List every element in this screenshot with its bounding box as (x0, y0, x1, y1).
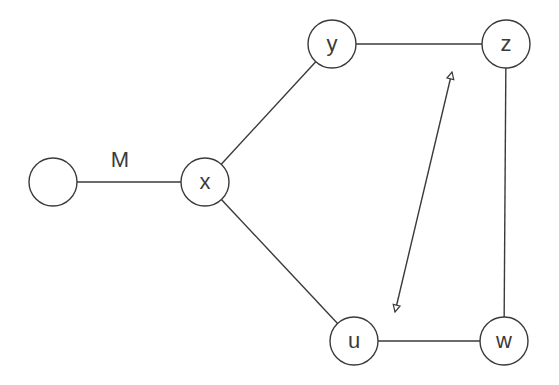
edge-x-y (221, 62, 315, 165)
edge-x-u (221, 200, 337, 324)
node-label: x (200, 169, 211, 194)
double-arrow-line (395, 72, 452, 312)
edge-z-w (504, 68, 506, 317)
node-label: u (348, 328, 360, 353)
node-label: y (327, 31, 338, 56)
node-u: u (330, 317, 378, 365)
double-arrow (395, 72, 452, 312)
node-w: w (480, 317, 528, 365)
node-y: y (308, 20, 356, 68)
node-circle (29, 158, 77, 206)
nodes: xyzuw (29, 20, 530, 365)
edge-label-m: M (111, 147, 129, 172)
node-label: z (501, 31, 512, 56)
node-unlabeled (29, 158, 77, 206)
node-x: x (181, 158, 229, 206)
node-label: w (495, 328, 512, 353)
edges (77, 44, 506, 341)
graph-diagram: xyzuw M (0, 0, 559, 385)
node-z: z (482, 20, 530, 68)
